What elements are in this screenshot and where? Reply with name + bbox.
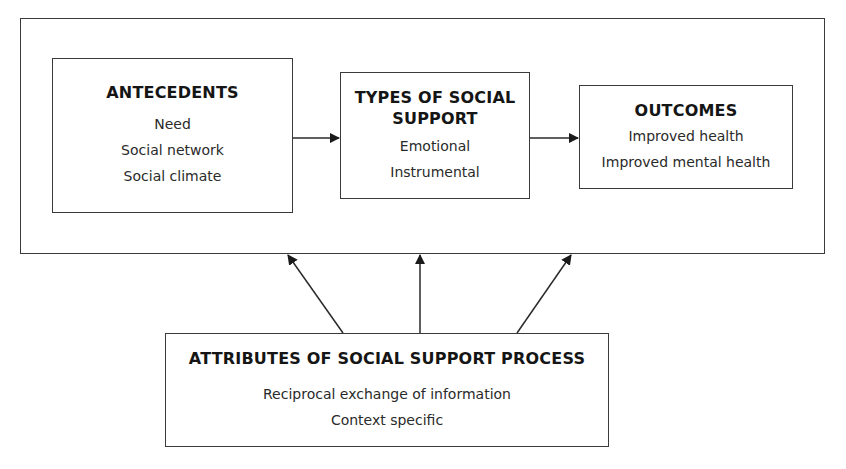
antecedents-title: ANTECEDENTS — [106, 82, 239, 103]
type-item: Instrumental — [390, 159, 480, 185]
antecedents-box: ANTECEDENTS Need Social network Social c… — [52, 58, 293, 213]
types-list: Emotional Instrumental — [390, 133, 480, 185]
type-item: Emotional — [390, 133, 480, 159]
antecedent-item: Social network — [121, 137, 224, 163]
antecedents-list: Need Social network Social climate — [121, 111, 224, 189]
diagram-canvas: ANTECEDENTS Need Social network Social c… — [0, 0, 846, 469]
attributes-list: Reciprocal exchange of information Conte… — [263, 381, 511, 433]
outcome-item: Improved health — [602, 123, 771, 149]
arrow-attributes-up-right — [517, 255, 571, 333]
types-title-line1: TYPES OF SOCIAL — [355, 87, 516, 108]
antecedent-item: Need — [121, 111, 224, 137]
arrow-attributes-up-left — [288, 255, 343, 333]
outcomes-box: OUTCOMES Improved health Improved mental… — [579, 85, 793, 189]
types-of-support-box: TYPES OF SOCIAL SUPPORT Emotional Instru… — [340, 72, 530, 199]
attribute-item: Reciprocal exchange of information — [263, 381, 511, 407]
outcomes-title: OUTCOMES — [635, 100, 738, 121]
outcomes-list: Improved health Improved mental health — [602, 123, 771, 175]
attribute-item: Context specific — [263, 407, 511, 433]
antecedent-item: Social climate — [121, 163, 224, 189]
types-title-line2: SUPPORT — [392, 108, 478, 129]
attributes-box: ATTRIBUTES OF SOCIAL SUPPORT PROCESS Rec… — [165, 333, 609, 447]
outcome-item: Improved mental health — [602, 149, 771, 175]
attributes-title: ATTRIBUTES OF SOCIAL SUPPORT PROCESS — [189, 348, 585, 369]
